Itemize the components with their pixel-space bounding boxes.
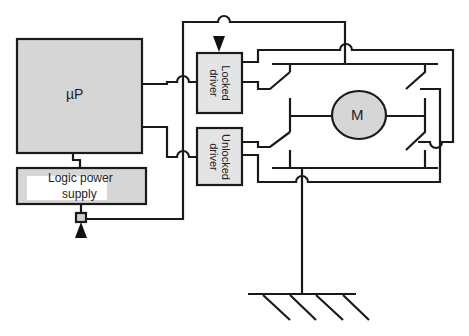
- up-to-locked-driver-wire: [142, 76, 196, 84]
- unlocked-driver-label: Unlocked driver: [197, 128, 242, 185]
- input-arrow-psu: [75, 222, 87, 238]
- unlocked-driver-label-1: Unlocked: [220, 134, 232, 180]
- locked-driver-label: Locked driver: [197, 53, 242, 113]
- ground-hatch: [263, 295, 369, 320]
- up-psu-wire: [73, 153, 80, 168]
- psu-terminal: [76, 213, 86, 222]
- unlocked-out-1: [242, 132, 290, 147]
- logic-power-supply-label-2: supply: [62, 187, 97, 201]
- locked-driver-label-2: driver: [208, 65, 220, 100]
- logic-power-supply-label-1: Logic power: [48, 171, 113, 185]
- unlocked-driver-label-2: driver: [208, 134, 220, 180]
- up-to-unlocked-driver-wire: [142, 127, 196, 157]
- locked-driver-label-1: Locked: [220, 65, 232, 100]
- microprocessor-label: µP: [66, 86, 83, 102]
- locked-out-2: [242, 72, 290, 89]
- motor-label: M: [351, 106, 364, 123]
- input-arrow-locked: [213, 36, 225, 52]
- right-switch-top: [406, 64, 425, 89]
